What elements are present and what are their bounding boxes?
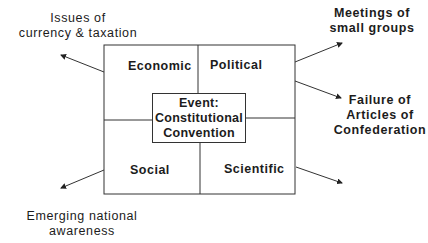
outcome-meetings: Meetings of small groups — [322, 6, 422, 36]
outcome-national-awareness: Emerging national awareness — [20, 209, 144, 239]
arrow-scientific — [296, 167, 342, 183]
outcome-failure-articles: Failure of Articles of Confederation — [330, 93, 428, 138]
arrow-social — [61, 170, 104, 188]
outcome-currency-taxation: Issues of currency & taxation — [10, 11, 146, 41]
center-line-3: Convention — [153, 126, 245, 141]
center-line-1: Event: — [153, 96, 245, 111]
arrow-economic — [61, 55, 104, 72]
center-event-box: Event: Constitutional Convention — [152, 93, 246, 143]
quadrant-scientific: Scientific — [224, 162, 285, 177]
quadrant-political: Political — [210, 58, 262, 73]
quadrant-social: Social — [130, 163, 170, 178]
center-line-2: Constitutional — [153, 111, 245, 126]
arrow-political-top — [295, 43, 342, 62]
quadrant-economic: Economic — [128, 59, 192, 74]
